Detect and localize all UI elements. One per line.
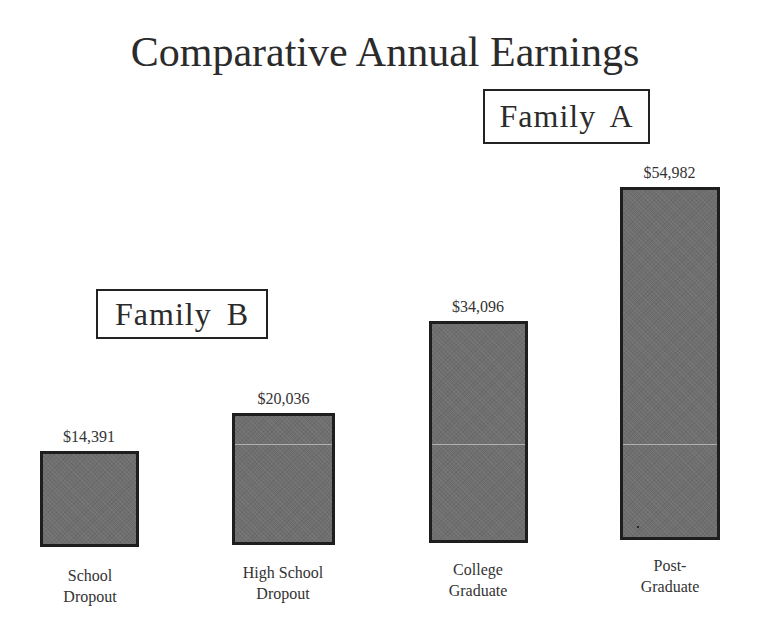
scan-line	[432, 444, 525, 445]
bar-college-graduate	[429, 321, 528, 543]
scan-line	[623, 444, 717, 445]
bar-category-label: High School Dropout	[213, 562, 353, 604]
category-line: Dropout	[30, 586, 150, 607]
bar-post-graduate	[620, 187, 720, 540]
family-a-text: Family A	[499, 98, 633, 135]
category-line: College	[418, 559, 538, 580]
bar-high-school-dropout	[232, 413, 335, 545]
bar-category-label: Post- Graduate	[610, 555, 730, 597]
speck	[637, 526, 639, 528]
category-line: Graduate	[418, 580, 538, 601]
bar-value-label: $14,391	[40, 428, 138, 446]
bar-category-label: School Dropout	[30, 565, 150, 607]
bar-value-label: $34,096	[429, 298, 527, 316]
family-b-text: Family B	[115, 296, 249, 333]
category-line: Graduate	[610, 576, 730, 597]
family-b-label: Family B	[96, 289, 268, 339]
bar-value-label: $20,036	[232, 390, 335, 408]
category-line: Post-	[610, 555, 730, 576]
scan-line	[235, 444, 332, 445]
family-a-label: Family A	[483, 89, 650, 144]
category-line: High School	[213, 562, 353, 583]
bar-school-dropout	[40, 451, 139, 547]
category-line: Dropout	[213, 583, 353, 604]
chart-title: Comparative Annual Earnings	[0, 28, 762, 76]
category-line: School	[30, 565, 150, 586]
bar-category-label: College Graduate	[418, 559, 538, 601]
bar-value-label: $54,982	[620, 164, 719, 182]
